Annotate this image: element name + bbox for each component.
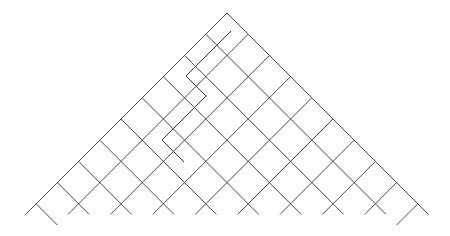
- lattice-diagram: [0, 0, 450, 236]
- background: [0, 0, 450, 236]
